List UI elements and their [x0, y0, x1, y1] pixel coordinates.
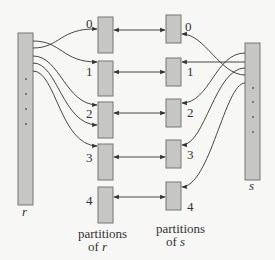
relation-r: r [18, 33, 33, 219]
relation-s-bar [245, 43, 260, 180]
partition-r-index-2: 2 [86, 106, 93, 121]
relation-s-label: s [249, 178, 254, 193]
partition-r-3 [98, 144, 113, 180]
partition-s-index-0: 0 [185, 19, 192, 34]
partition-r-0 [98, 17, 113, 53]
partition-s-0 [166, 15, 181, 43]
partition-r-4 [98, 187, 113, 223]
partitions-r-caption-line2: of r [88, 239, 108, 254]
relation-s: s [245, 43, 260, 193]
partition-r-2 [98, 102, 113, 138]
partition-s-1 [166, 58, 181, 86]
relation-r-bar [18, 33, 33, 205]
hash-curves-r [33, 29, 97, 146]
partition-r-1 [98, 61, 113, 96]
relation-r-label: r [22, 204, 28, 219]
partition-s-4 [166, 182, 181, 210]
partition-s-index-1: 1 [187, 64, 194, 79]
hash-partition-diagram: r s 0 1 2 3 4 partitions of r 0 1 2 3 4 [0, 0, 275, 260]
partition-r-index-1: 1 [86, 64, 93, 79]
partition-s-2 [166, 99, 181, 127]
partition-s-index-4: 4 [187, 199, 194, 214]
partitions-s-caption-line2: of s [166, 234, 185, 249]
partition-s-index-2: 2 [187, 105, 194, 120]
partition-s-index-3: 3 [187, 147, 194, 162]
partition-r-index-4: 4 [86, 193, 93, 208]
partition-s-3 [166, 140, 181, 168]
partition-r-index-3: 3 [86, 150, 93, 165]
partition-join-arrows [114, 30, 165, 197]
partitions-r: 0 1 2 3 4 partitions of r [78, 16, 127, 254]
